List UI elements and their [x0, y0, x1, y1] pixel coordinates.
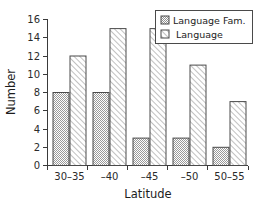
y-tick-label: 4: [34, 124, 40, 135]
y-axis-title: Number: [4, 69, 18, 115]
y-axis-ticks: 0 2 4 6 8 10 12 14 16: [27, 14, 47, 171]
x-axis-labels: 30–35 –40 –45 –50 50–55: [54, 171, 244, 182]
bar-language: [110, 29, 126, 166]
bar-language-fam: [213, 147, 229, 165]
bar-chart-figure: 0 2 4 6 8 10 12 14 16: [0, 0, 256, 205]
y-tick-label: 0: [34, 160, 40, 171]
chart-canvas: 0 2 4 6 8 10 12 14 16: [0, 0, 256, 205]
y-tick-label: 6: [34, 105, 40, 116]
y-tick-label: 14: [27, 32, 40, 43]
bar-language: [70, 56, 86, 166]
bar-language: [230, 102, 246, 166]
bar-language-fam: [133, 138, 149, 165]
bar-language-fam: [53, 93, 69, 166]
bar-language-fam: [93, 93, 109, 166]
y-tick-label: 10: [27, 69, 40, 80]
y-tick-label: 12: [27, 51, 40, 62]
x-tick-label: –50: [181, 171, 199, 182]
legend-label-language-fam: Language Fam.: [173, 15, 246, 26]
x-axis-title: Latitude: [124, 187, 171, 201]
legend-swatch-language-fam: [161, 16, 169, 24]
y-tick-label: 16: [27, 14, 40, 25]
x-axis-ticks: [48, 166, 249, 171]
bar-language: [150, 29, 166, 166]
legend-swatch-language: [161, 30, 169, 38]
x-tick-label: 50–55: [214, 171, 244, 182]
legend-label-language: Language: [176, 29, 223, 40]
x-tick-label: –40: [101, 171, 119, 182]
chart-legend: Language Fam. Language: [156, 11, 253, 44]
x-tick-label: –45: [141, 171, 159, 182]
bar-language: [190, 65, 206, 165]
y-tick-label: 2: [34, 142, 40, 153]
y-tick-label: 8: [34, 87, 40, 98]
bar-language-fam: [173, 138, 189, 165]
x-tick-label: 30–35: [54, 171, 84, 182]
